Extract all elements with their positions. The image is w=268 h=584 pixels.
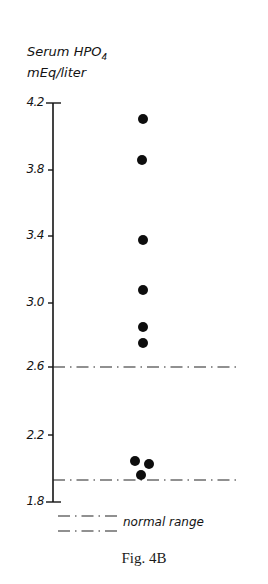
data-points [130,114,154,480]
data-point [138,285,148,295]
data-point [138,114,148,124]
data-point [138,322,148,332]
data-point [138,235,148,245]
legend-swatch [58,516,118,531]
data-point [138,338,148,348]
figure-caption: Fig. 4B [0,550,268,567]
legend-label: normal range [123,515,204,529]
data-point [136,470,146,480]
data-point [137,155,147,165]
data-point [130,456,140,466]
data-point [144,459,154,469]
chart-canvas [0,0,268,584]
